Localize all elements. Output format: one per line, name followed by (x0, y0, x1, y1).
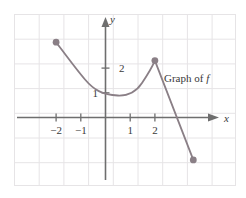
x-axis-label: x (223, 112, 229, 124)
plot-canvas: −2 −1 1 2 1 2 x y Graph of f (0, 0, 246, 198)
grid-vertical-lines (15, 14, 236, 186)
y-axis-arrowhead (102, 17, 110, 27)
x-tick-label-2: 2 (152, 124, 158, 136)
annotation-function-symbol: f (206, 72, 211, 84)
x-tick-label-neg1: −1 (75, 124, 87, 136)
graph-of-f-annotation: Graph of f (164, 72, 211, 84)
graph-figure: −2 −1 1 2 1 2 x y Graph of f (0, 0, 246, 198)
right-endpoint-dot (190, 157, 197, 164)
x-axis (17, 114, 219, 122)
annotation-text: Graph of (164, 72, 206, 84)
y-tick-label-2: 2 (119, 62, 125, 74)
y-axis-label: y (109, 13, 115, 25)
grid-horizontal-lines (14, 15, 236, 186)
x-axis-arrowhead (208, 114, 219, 122)
x-tick-label-neg2: −2 (50, 124, 62, 136)
left-endpoint-dot (53, 39, 60, 46)
y-axis (102, 17, 110, 180)
corner-peak-dot (152, 57, 159, 64)
x-tick-label-1: 1 (127, 124, 133, 136)
